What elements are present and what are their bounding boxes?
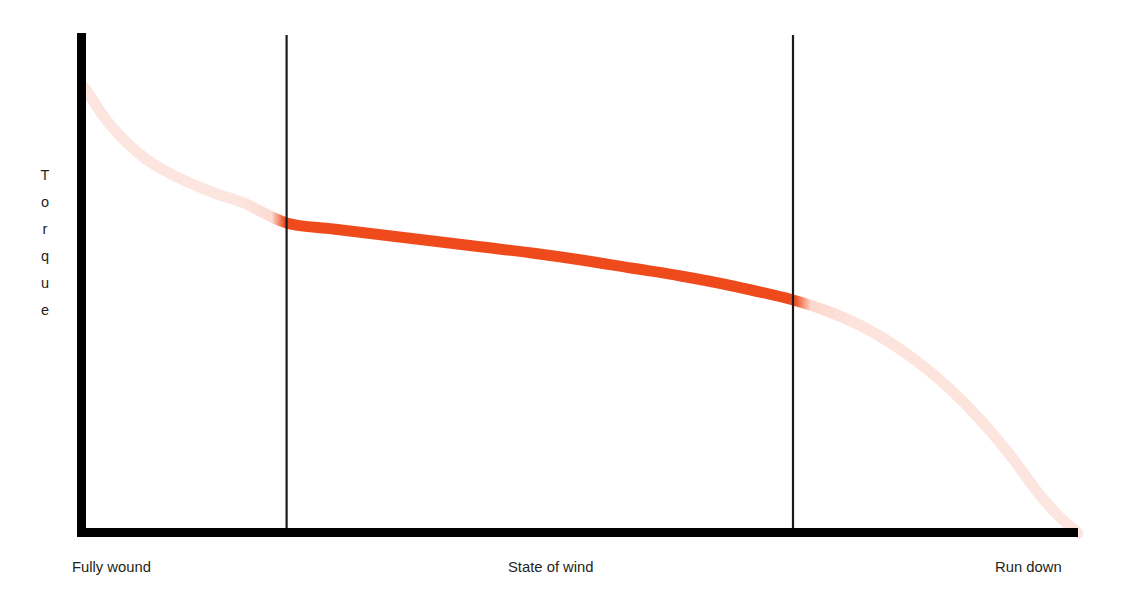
y-axis-label-letter: e <box>30 297 60 324</box>
x-axis-label-fully-wound: Fully wound <box>72 559 151 575</box>
plot-canvas <box>0 0 1125 610</box>
y-axis-label-letter: r <box>30 216 60 243</box>
torque-curve <box>85 88 1078 533</box>
torque-curve-group <box>85 88 1078 533</box>
y-axis-label-letter: T <box>30 162 60 189</box>
chart-figure: T o r q u e Fully wound State of wind Ru… <box>0 0 1125 610</box>
axes <box>77 33 1078 533</box>
x-axis-label-state-of-wind: State of wind <box>508 559 594 575</box>
y-axis-label-letter: u <box>30 270 60 297</box>
y-axis-label-letter: o <box>30 189 60 216</box>
y-axis-label: T o r q u e <box>30 162 60 324</box>
y-axis-label-letter: q <box>30 243 60 270</box>
x-axis-label-run-down: Run down <box>995 559 1062 575</box>
